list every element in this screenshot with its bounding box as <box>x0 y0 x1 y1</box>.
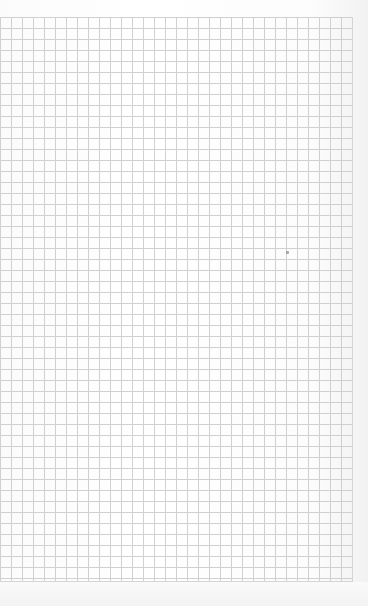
bottom-margin <box>0 582 368 606</box>
grid-paper-sheet <box>0 0 368 606</box>
speck-mark <box>286 251 289 254</box>
grid-lines <box>0 17 353 582</box>
